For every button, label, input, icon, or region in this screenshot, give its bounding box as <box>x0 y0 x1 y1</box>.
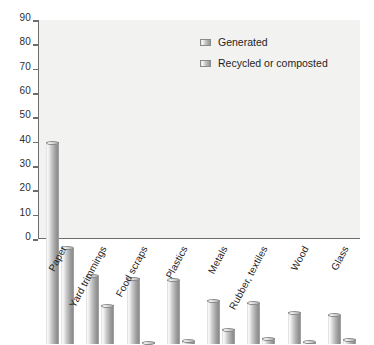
legend-label: Generated <box>218 37 268 48</box>
y-axis-tick-label: 50 <box>19 110 31 120</box>
bar-group <box>167 20 195 344</box>
y-axis-tick-label: 90 <box>19 13 31 23</box>
bar-recycled <box>182 341 195 344</box>
bar-generated <box>247 303 260 344</box>
chart-legend: GeneratedRecycled or composted <box>200 36 328 78</box>
y-axis-tick-label: 10 <box>19 208 31 218</box>
bar-group <box>86 20 114 344</box>
y-axis-tick-mark <box>33 166 38 168</box>
y-axis-tick-label: 80 <box>19 37 31 47</box>
y-axis-tick-label: 60 <box>19 86 31 96</box>
y-axis-tick-mark <box>33 117 38 119</box>
legend-label: Recycled or composted <box>218 58 328 69</box>
y-axis-tick-label: 70 <box>19 62 31 72</box>
legend-swatch-recycled <box>200 60 211 67</box>
bar-group <box>328 20 356 344</box>
legend-item: Recycled or composted <box>200 57 328 69</box>
bar-generated <box>207 300 220 344</box>
bar-generated <box>46 142 59 344</box>
y-axis-tick-label: 20 <box>19 183 31 193</box>
bar-recycled <box>343 339 356 344</box>
y-axis-tick-mark <box>33 215 38 217</box>
y-axis-tick-mark <box>33 44 38 46</box>
y-axis-tick-label: 30 <box>19 159 31 169</box>
bar-recycled <box>222 329 235 344</box>
y-axis-tick-mark <box>33 142 38 144</box>
bar-recycled <box>101 305 114 344</box>
bar-generated <box>328 315 341 344</box>
y-axis-tick-mark <box>33 69 38 71</box>
y-axis-tick-label: 0 <box>25 232 31 242</box>
bar-recycled <box>142 342 155 344</box>
y-axis-tick-mark <box>33 20 38 22</box>
bar-group <box>127 20 155 344</box>
bar-group <box>46 20 74 344</box>
legend-swatch-generated <box>200 39 211 46</box>
legend-item: Generated <box>200 36 328 48</box>
bar-recycled <box>262 338 275 344</box>
y-axis-tick-mark <box>33 190 38 192</box>
bar-generated <box>288 312 301 344</box>
bar-recycled <box>303 342 316 344</box>
bar-generated <box>167 280 180 344</box>
y-axis-tick-label: 40 <box>19 135 31 145</box>
y-axis-tick-mark <box>33 239 38 241</box>
y-axis-tick-mark <box>33 93 38 95</box>
